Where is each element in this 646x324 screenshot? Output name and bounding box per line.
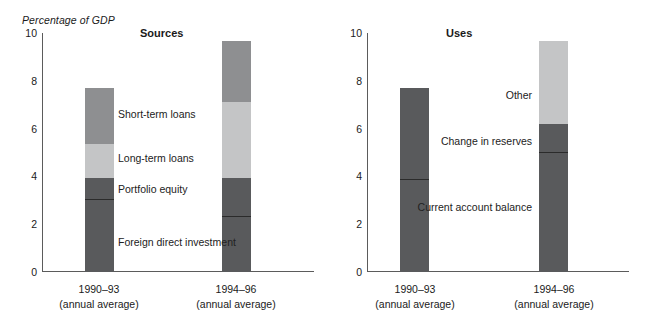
category-sub: (annual average) bbox=[196, 297, 275, 312]
plot-area-uses: 10 8 6 4 2 0 Other Change in reserves Cu… bbox=[367, 33, 629, 272]
segment-divider-portfolio-fdi bbox=[222, 216, 251, 217]
segment-portfolio-equity[interactable] bbox=[85, 178, 114, 201]
label-foreign-direct-investment: Foreign direct investment bbox=[118, 237, 236, 248]
y-tick-4: 4 bbox=[356, 171, 362, 181]
category-label-1994-96: 1994–96 (annual average) bbox=[514, 282, 593, 312]
segment-other[interactable] bbox=[539, 41, 568, 123]
y-tick-4: 4 bbox=[31, 171, 37, 181]
label-short-term-loans: Short-term loans bbox=[118, 109, 196, 120]
y-tick-0: 0 bbox=[31, 267, 37, 277]
segment-long-term-loans[interactable] bbox=[85, 144, 114, 178]
category-label-1990-93: 1990–93 (annual average) bbox=[59, 282, 138, 312]
label-portfolio-equity: Portfolio equity bbox=[118, 184, 187, 195]
bar-uses-1990-93[interactable] bbox=[400, 88, 429, 272]
label-current-account-balance: Current account balance bbox=[418, 202, 532, 213]
y-tick-6: 6 bbox=[31, 124, 37, 134]
segment-divider-portfolio-fdi bbox=[85, 199, 114, 200]
category-period: 1990–93 bbox=[79, 283, 120, 295]
category-period: 1994–96 bbox=[216, 283, 257, 295]
bar-sources-1990-93[interactable] bbox=[85, 88, 114, 272]
label-long-term-loans: Long-term loans bbox=[118, 153, 194, 164]
segment-portfolio-equity[interactable] bbox=[222, 178, 251, 217]
category-label-1990-93: 1990–93 (annual average) bbox=[375, 282, 454, 312]
panel-sources: Sources 10 8 6 4 2 0 bbox=[0, 0, 330, 324]
category-sub: (annual average) bbox=[59, 297, 138, 312]
category-period: 1994–96 bbox=[534, 283, 575, 295]
segment-current-account-balance[interactable] bbox=[400, 180, 429, 272]
segment-change-in-reserves[interactable] bbox=[400, 88, 429, 180]
y-tick-0: 0 bbox=[356, 267, 362, 277]
segment-current-account-balance[interactable] bbox=[539, 153, 568, 273]
segment-divider-reserves-current-account bbox=[539, 152, 568, 153]
y-tick-10: 10 bbox=[350, 28, 362, 38]
y-axis-line-uses bbox=[367, 33, 368, 272]
category-sub: (annual average) bbox=[375, 297, 454, 312]
plot-area-sources: 10 8 6 4 2 0 Short-ter bbox=[42, 33, 314, 272]
segment-short-term-loans[interactable] bbox=[85, 88, 114, 144]
y-tick-2: 2 bbox=[356, 219, 362, 229]
segment-long-term-loans[interactable] bbox=[222, 102, 251, 177]
y-tick-2: 2 bbox=[31, 219, 37, 229]
x-axis-line-sources bbox=[42, 271, 314, 272]
category-label-1994-96: 1994–96 (annual average) bbox=[196, 282, 275, 312]
segment-divider-reserves-current-account bbox=[400, 179, 429, 180]
label-change-in-reserves: Change in reserves bbox=[441, 136, 532, 147]
segment-change-in-reserves[interactable] bbox=[539, 124, 568, 153]
label-other: Other bbox=[506, 90, 532, 101]
segment-foreign-direct-investment[interactable] bbox=[85, 200, 114, 272]
y-tick-10: 10 bbox=[25, 28, 37, 38]
category-sub: (annual average) bbox=[514, 297, 593, 312]
y-tick-8: 8 bbox=[356, 76, 362, 86]
segment-short-term-loans[interactable] bbox=[222, 41, 251, 102]
y-tick-6: 6 bbox=[356, 124, 362, 134]
figure-stacked-bar-charts: Percentage of GDP Sources 10 8 6 4 2 0 bbox=[0, 0, 646, 324]
category-period: 1990–93 bbox=[395, 283, 436, 295]
panel-uses: Uses 10 8 6 4 2 0 Other bbox=[330, 0, 646, 324]
bar-uses-1994-96[interactable] bbox=[539, 41, 568, 272]
y-tick-8: 8 bbox=[31, 76, 37, 86]
y-axis-line-sources bbox=[42, 33, 43, 272]
